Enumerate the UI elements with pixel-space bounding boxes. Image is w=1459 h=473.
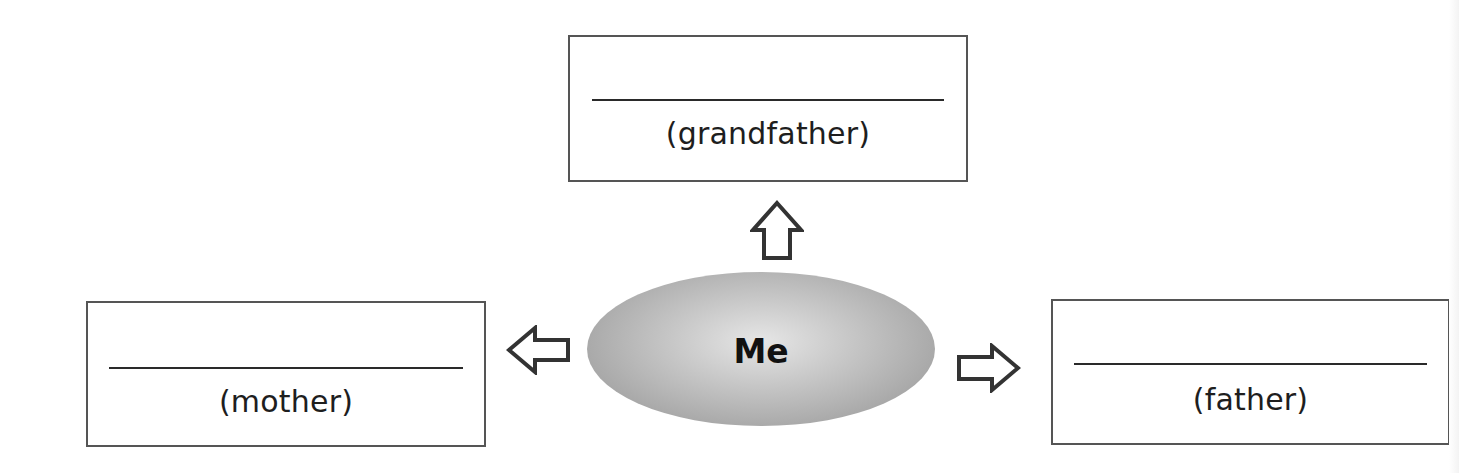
me-ellipse: Me bbox=[587, 272, 935, 426]
grandfather-box: (grandfather) bbox=[568, 35, 968, 182]
mother-box: (mother) bbox=[86, 301, 486, 447]
father-label: (father) bbox=[1053, 385, 1448, 415]
arrow-left-icon bbox=[506, 325, 572, 375]
arrow-right-icon bbox=[955, 343, 1021, 393]
father-answer-line[interactable] bbox=[1074, 363, 1427, 365]
page-edge-shade bbox=[1449, 0, 1459, 473]
grandfather-answer-line[interactable] bbox=[592, 99, 944, 101]
mother-label: (mother) bbox=[88, 387, 484, 417]
me-label: Me bbox=[733, 332, 788, 371]
mother-answer-line[interactable] bbox=[109, 367, 463, 369]
father-box: (father) bbox=[1051, 299, 1450, 445]
arrow-up-icon bbox=[750, 200, 804, 262]
grandfather-label: (grandfather) bbox=[570, 119, 966, 149]
